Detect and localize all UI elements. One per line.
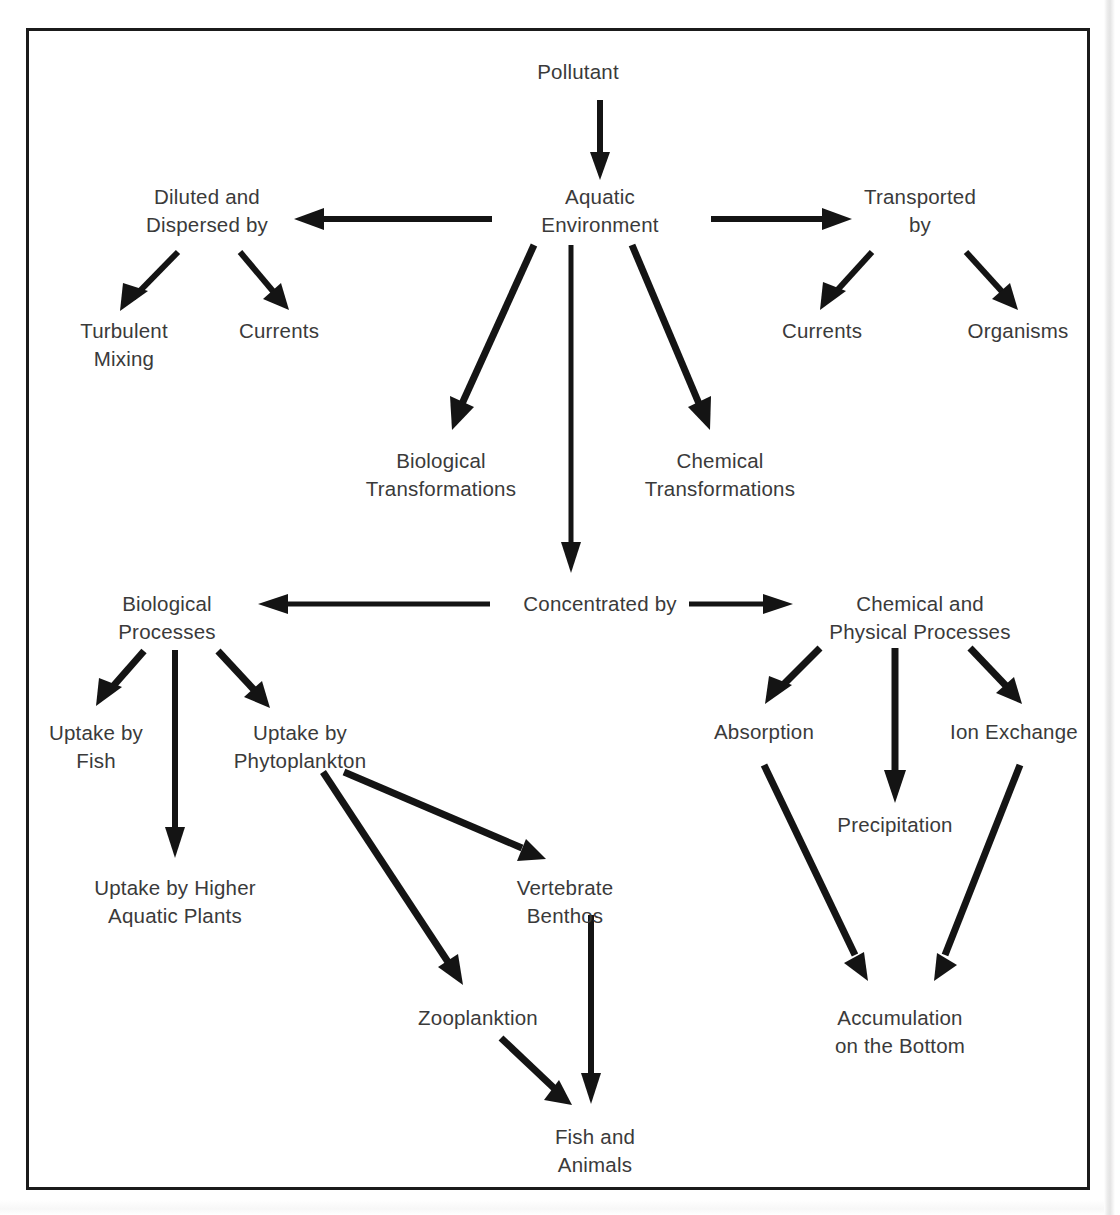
node-label-layer: Pollutant Aquatic Environment Diluted an… bbox=[49, 60, 1078, 1176]
edge-vertebrate-benthos-to-fish-and-animals bbox=[581, 915, 601, 1104]
edge-pollutant-to-aquatic-environment bbox=[590, 100, 610, 180]
node-chemical-physical-processes-line2: Physical Processes bbox=[829, 620, 1010, 643]
edge-transported-by-to-organisms bbox=[966, 252, 1018, 310]
node-precipitation: Precipitation bbox=[837, 813, 952, 836]
node-aquatic-environment-line2: Environment bbox=[541, 213, 658, 236]
edge-concentrated-by-to-biological-processes bbox=[258, 594, 490, 614]
edge-concentrated-by-to-chemical-physical-processes bbox=[689, 594, 793, 614]
node-biological-transformations-line2: Transformations bbox=[366, 477, 516, 500]
node-chemical-transformations-line1: Chemical bbox=[676, 449, 763, 472]
node-biological-processes-line1: Biological bbox=[122, 592, 212, 615]
node-uptake-by-fish-line2: Fish bbox=[76, 749, 116, 772]
pollutant-flowchart: Pollutant Aquatic Environment Diluted an… bbox=[0, 0, 1120, 1215]
node-absorption: Absorption bbox=[714, 720, 814, 743]
node-turbulent-mixing-line1: Turbulent bbox=[80, 319, 168, 342]
node-currents-left: Currents bbox=[239, 319, 319, 342]
node-accumulation-bottom-line2: on the Bottom bbox=[835, 1034, 965, 1057]
edge-aquatic-environment-to-chemical-transformations bbox=[632, 245, 711, 430]
edge-diluted-dispersed-to-currents-left bbox=[240, 252, 289, 310]
page-canvas: Pollutant Aquatic Environment Diluted an… bbox=[0, 0, 1120, 1215]
node-ion-exchange: Ion Exchange bbox=[950, 720, 1078, 743]
scan-edge-artifact-bottom bbox=[0, 1200, 1104, 1215]
node-fish-and-animals-line2: Animals bbox=[558, 1153, 632, 1176]
node-uptake-by-phytoplankton-line1: Uptake by bbox=[253, 721, 348, 744]
edge-absorption-to-accumulation-bottom bbox=[764, 765, 868, 981]
node-chemical-physical-processes-line1: Chemical and bbox=[856, 592, 984, 615]
node-uptake-by-phytoplankton-line2: Phytoplankton bbox=[234, 749, 367, 772]
edge-aquatic-environment-to-transported-by bbox=[711, 208, 852, 230]
node-uptake-higher-plants-line1: Uptake by Higher bbox=[94, 876, 256, 899]
edge-aquatic-environment-to-concentrated-by bbox=[561, 245, 581, 573]
node-uptake-by-fish-line1: Uptake by bbox=[49, 721, 144, 744]
node-diluted-dispersed-line1: Diluted and bbox=[154, 185, 260, 208]
node-uptake-higher-plants-line2: Aquatic Plants bbox=[108, 904, 242, 927]
edge-biological-processes-to-uptake-by-phytoplankton bbox=[218, 651, 270, 708]
node-fish-and-animals-line1: Fish and bbox=[555, 1125, 635, 1148]
node-transported-by-line1: Transported bbox=[864, 185, 976, 208]
edge-uptake-by-phytoplankton-to-zooplanktion bbox=[323, 772, 463, 985]
node-pollutant: Pollutant bbox=[537, 60, 619, 83]
edge-diluted-dispersed-to-turbulent-mixing bbox=[120, 252, 178, 311]
edge-chemical-physical-processes-to-absorption bbox=[765, 648, 820, 704]
edge-biological-processes-to-uptake-by-fish bbox=[96, 651, 144, 706]
node-diluted-dispersed-line2: Dispersed by bbox=[146, 213, 269, 236]
edge-transported-by-to-currents-right bbox=[820, 252, 872, 310]
node-chemical-transformations-line2: Transformations bbox=[645, 477, 795, 500]
edge-aquatic-environment-to-diluted-dispersed bbox=[294, 208, 492, 230]
edge-zooplanktion-to-fish-and-animals bbox=[501, 1038, 572, 1105]
edge-chemical-physical-processes-to-ion-exchange bbox=[970, 648, 1022, 704]
node-aquatic-environment-line1: Aquatic bbox=[565, 185, 635, 208]
scan-edge-artifact-right bbox=[1104, 0, 1115, 1215]
node-biological-processes-line2: Processes bbox=[118, 620, 216, 643]
node-accumulation-bottom-line1: Accumulation bbox=[837, 1006, 962, 1029]
node-currents-right: Currents bbox=[782, 319, 862, 342]
node-biological-transformations-line1: Biological bbox=[396, 449, 486, 472]
node-vertebrate-benthos-line1: Vertebrate bbox=[517, 876, 614, 899]
edge-ion-exchange-to-accumulation-bottom bbox=[934, 765, 1020, 981]
node-organisms: Organisms bbox=[968, 319, 1069, 342]
edge-chemical-physical-processes-to-precipitation bbox=[884, 648, 906, 803]
node-zooplanktion: Zooplanktion bbox=[418, 1006, 538, 1029]
node-concentrated-by: Concentrated by bbox=[523, 592, 677, 615]
node-turbulent-mixing-line2: Mixing bbox=[94, 347, 154, 370]
edge-aquatic-environment-to-biological-transformations bbox=[450, 245, 534, 430]
node-vertebrate-benthos-line2: Benthos bbox=[527, 904, 604, 927]
edge-biological-processes-to-uptake-higher-plants bbox=[165, 650, 185, 858]
node-transported-by-line2: by bbox=[909, 213, 932, 236]
